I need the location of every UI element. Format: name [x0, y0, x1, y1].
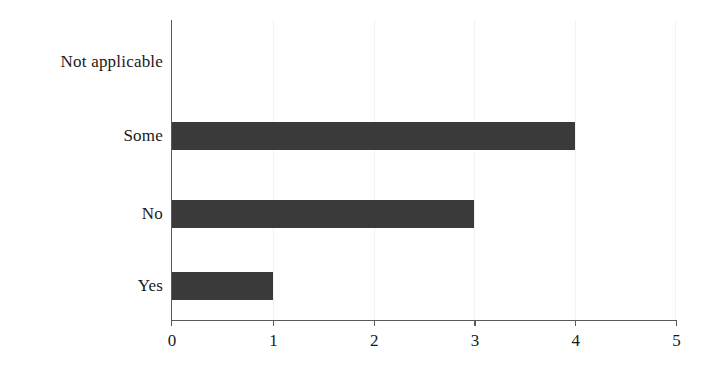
x-tick-mark-5 — [676, 320, 677, 326]
x-tick-label-0: 0 — [152, 331, 192, 351]
y-axis-label-yes: Yes — [0, 276, 163, 296]
x-tick-label-1: 1 — [253, 331, 293, 351]
bar-yes — [172, 272, 273, 300]
y-axis-label-some: Some — [0, 126, 163, 146]
gridline-2 — [374, 20, 375, 320]
gridline-4 — [575, 20, 576, 320]
x-tick-mark-4 — [575, 320, 576, 326]
bar-some — [172, 122, 575, 150]
bar-chart: Not applicable Some No Yes 0 1 2 3 4 5 — [0, 0, 708, 376]
x-tick-label-3: 3 — [455, 331, 495, 351]
gridline-3 — [474, 20, 475, 320]
x-tick-label-5: 5 — [656, 331, 696, 351]
y-axis-label-not-applicable: Not applicable — [0, 52, 163, 72]
bar-no — [172, 200, 474, 228]
x-tick-mark-3 — [474, 320, 475, 326]
x-tick-mark-1 — [273, 320, 274, 326]
x-tick-mark-0 — [171, 320, 172, 326]
x-axis-line — [171, 320, 677, 321]
y-axis-label-no: No — [0, 204, 163, 224]
x-tick-mark-2 — [374, 320, 375, 326]
gridline-5 — [675, 20, 676, 320]
x-tick-label-2: 2 — [354, 331, 394, 351]
y-axis-line — [171, 20, 172, 321]
gridline-1 — [273, 20, 274, 320]
x-tick-label-4: 4 — [556, 331, 596, 351]
